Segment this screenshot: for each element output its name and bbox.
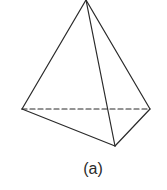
edge-apex-left — [22, 0, 86, 109]
edge-front-right — [115, 109, 150, 146]
figure-caption: (a) — [0, 160, 167, 178]
edge-apex-right — [86, 0, 150, 109]
edge-left-front — [22, 109, 115, 146]
edge-apex-front — [86, 0, 115, 146]
